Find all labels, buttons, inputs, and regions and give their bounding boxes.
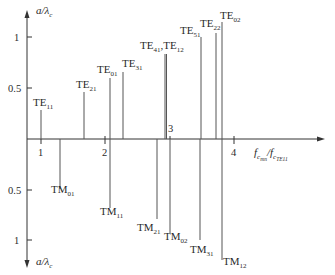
label-te22: TE22 — [200, 18, 220, 29]
y-tick-top-0.5: 0.5 — [8, 83, 21, 94]
label-te01: TE01 — [97, 64, 117, 75]
label-te41-te12: TE41,TE12 — [140, 40, 184, 51]
label-te31: TE31 — [122, 58, 142, 69]
label-te21: TE21 — [76, 79, 96, 90]
label-te51: TE51 — [180, 25, 200, 36]
y-axis-up-arrow-icon — [25, 10, 30, 18]
x-tick-3: 3 — [168, 123, 173, 134]
label-tm11: TM11 — [100, 206, 123, 217]
label-tm31: TM31 — [190, 244, 214, 255]
y-tick-bottom-0.5: 0.5 — [8, 185, 21, 196]
y-axis-label-top: a/λc — [36, 4, 52, 16]
label-tm21: TM21 — [137, 222, 161, 233]
x-tick-1: 1 — [38, 147, 43, 158]
y-axis-label-bottom: a/λc — [36, 255, 52, 267]
x-axis-label: fcmn/fcTE11 — [254, 146, 288, 159]
label-tm02: TM02 — [164, 231, 188, 242]
te-mode-lines — [41, 22, 222, 139]
label-tm12: TM12 — [223, 256, 247, 267]
x-tick-2: 2 — [102, 147, 107, 158]
y-tick-bottom-1: 1 — [14, 235, 19, 246]
mode-cutoff-diagram: a/λc a/λc fcmn/fcTE11 1 0.5 0.5 1 1 2 3 … — [0, 0, 335, 275]
y-tick-top-1: 1 — [14, 32, 19, 43]
tm-mode-lines — [60, 139, 222, 260]
label-te02: TE02 — [220, 10, 240, 21]
y-axis-down-arrow-icon — [25, 260, 30, 268]
x-axis-arrow-icon — [317, 137, 325, 142]
x-tick-4: 4 — [231, 147, 236, 158]
label-tm01: TM01 — [51, 184, 75, 195]
label-te11: TE11 — [33, 97, 53, 108]
